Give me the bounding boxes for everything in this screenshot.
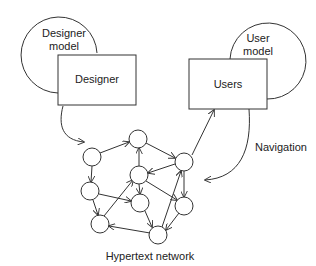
node (129, 130, 147, 148)
designer-model-label-1: Designer (36, 27, 92, 40)
node (130, 166, 148, 184)
node (91, 215, 109, 233)
node (149, 226, 167, 244)
node (81, 182, 99, 200)
node (175, 197, 193, 215)
network-to-users-arrow (192, 110, 214, 155)
navigation-arrow (205, 109, 249, 180)
user-model-label-2: model (230, 45, 286, 58)
user-model-label-1: User (230, 32, 286, 45)
navigation-label: Navigation (255, 141, 307, 154)
designer-label: Designer (58, 73, 136, 86)
network-nodes (81, 130, 193, 244)
users-label: Users (189, 78, 267, 91)
node (175, 153, 193, 171)
node (131, 194, 149, 212)
node (83, 148, 101, 166)
designer-model-label-2: model (36, 40, 92, 53)
designer-to-network-arrow (61, 106, 84, 142)
hypertext-network-label: Hypertext network (100, 250, 200, 263)
